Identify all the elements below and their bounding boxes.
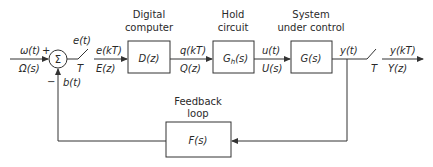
sampler-switch-arm [78, 49, 88, 59]
us-label: U(s) [262, 63, 282, 74]
input-time-label: ω(t) [20, 45, 40, 56]
input-sampler: e(t) T e(kT) E(z) [67, 35, 127, 74]
input-laplace-label: Ω(s) [18, 63, 40, 74]
input-signal: ω(t) + Ω(s) [10, 45, 50, 74]
hold-circuit-caption-1: Hold [222, 9, 245, 20]
system-caption-1: System [292, 9, 329, 20]
ekt-label: e(kT) [96, 45, 122, 56]
system-caption-2: under control [277, 22, 344, 33]
feedback-caption-1: Feedback [174, 96, 222, 107]
dz-transfer-function: D(z) [139, 53, 160, 64]
ut-label: u(t) [262, 45, 280, 56]
digital-computer-caption-1: Digital [133, 9, 165, 20]
qz-label: Q(z) [180, 63, 201, 74]
error-signal-label: e(t) [73, 35, 91, 46]
fs-transfer-function: F(s) [189, 135, 208, 146]
feedback-minus-sign: − [47, 76, 55, 87]
input-plus-sign: + [42, 45, 50, 56]
summing-junction: Σ − b(t) [47, 50, 81, 88]
yt-label: y(t) [339, 45, 358, 56]
digital-computer-caption-2: computer [125, 22, 174, 33]
feedback-loop-block: Feedback loop F(s) [166, 96, 231, 157]
gs-transfer-function: G(s) [301, 53, 322, 64]
ez-label: E(z) [96, 63, 115, 74]
hold-circuit-caption-2: circuit [218, 22, 249, 33]
feedback-caption-2: loop [187, 108, 208, 119]
digital-computer-block: Digital computer D(z) [125, 9, 174, 73]
sample-period-label: T [77, 63, 84, 74]
system-under-control-block: System under control G(s) [277, 9, 344, 73]
hold-circuit-block: Hold circuit Gh(s) [213, 9, 254, 73]
qkt-label: q(kT) [180, 45, 206, 56]
feedback-signal-label: b(t) [63, 77, 81, 88]
sigma-symbol: Σ [55, 54, 61, 65]
block-diagram: ω(t) + Ω(s) Σ − b(t) e(t) T e(kT) E(z) D… [0, 0, 433, 167]
ykt-label: y(kT) [389, 45, 416, 56]
output-period-label: T [371, 63, 378, 74]
yz-label: Y(z) [388, 63, 407, 74]
output-sampler-arm [367, 49, 376, 59]
